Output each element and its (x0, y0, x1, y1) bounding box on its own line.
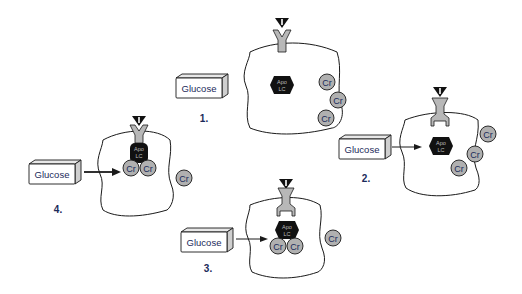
insulin-icon (275, 18, 289, 28)
chromium-ion: Cr (480, 126, 496, 142)
panel-3: Apo LC Cr Cr Cr Glucose 3. (181, 179, 341, 278)
svg-text:Cr: Cr (179, 174, 189, 184)
svg-text:Cr: Cr (333, 96, 343, 106)
step-label: 4. (54, 204, 63, 215)
chromium-ion: Cr (451, 160, 467, 176)
apolc-hexagon: Apo LC (275, 221, 299, 239)
step-label: 1. (200, 113, 209, 124)
svg-text:Cr: Cr (126, 164, 136, 174)
svg-text:LC: LC (278, 86, 285, 92)
svg-text:Glucose: Glucose (345, 144, 380, 155)
svg-text:Cr: Cr (273, 242, 283, 252)
glucose-box: Glucose (339, 135, 391, 159)
svg-text:Apo: Apo (134, 146, 144, 152)
svg-text:Cr: Cr (143, 164, 153, 174)
glucose-box: Glucose (29, 160, 81, 184)
chromium-ion: Cr (325, 230, 341, 246)
insulin-icon (279, 179, 293, 189)
svg-text:Cr: Cr (328, 234, 338, 244)
insulin-icon (433, 87, 447, 97)
chromium-ion: Cr (140, 160, 156, 176)
panel-4: Apo LC Cr Cr Cr Glucose 4. (29, 116, 192, 216)
svg-text:Apo: Apo (436, 140, 446, 146)
svg-text:Glucose: Glucose (35, 169, 70, 180)
chromium-ion: Cr (318, 110, 334, 126)
step-label: 3. (204, 263, 213, 274)
svg-text:Cr: Cr (454, 164, 464, 174)
svg-text:Cr: Cr (470, 150, 480, 160)
svg-text:Apo: Apo (282, 224, 292, 230)
chromium-ion: Cr (287, 238, 303, 254)
apolc-hexagon: Apo LC (429, 137, 453, 155)
svg-text:Apo: Apo (277, 79, 287, 85)
svg-text:Cr: Cr (290, 242, 300, 252)
panel-1: Apo LC Cr Cr Cr Glucose 1. (176, 18, 346, 134)
svg-text:Glucose: Glucose (187, 237, 222, 248)
chromium-ion: Cr (467, 146, 483, 162)
chromium-ion: Cr (319, 74, 335, 90)
svg-text:LC: LC (283, 231, 290, 237)
chromium-ion: Cr (270, 238, 286, 254)
apolc-hexagon: Apo LC (270, 76, 294, 94)
svg-text:LC: LC (437, 147, 444, 153)
svg-text:Cr: Cr (483, 130, 493, 140)
chromium-ion: Cr (176, 170, 192, 186)
step-label: 2. (362, 173, 371, 184)
panel-2: Apo LC Cr Cr Cr Glucose 2. (339, 87, 496, 196)
chromium-ion: Cr (123, 160, 139, 176)
chromodulin-diagram: Apo LC Cr Cr Cr Glucose 1. Apo LC Cr Cr … (0, 0, 522, 294)
svg-text:Cr: Cr (322, 78, 332, 88)
glucose-box: Glucose (176, 74, 228, 98)
glucose-box: Glucose (181, 228, 233, 252)
svg-text:LC: LC (135, 153, 142, 159)
svg-text:Cr: Cr (321, 114, 331, 124)
svg-text:Glucose: Glucose (182, 83, 217, 94)
insulin-icon (132, 116, 146, 126)
chromium-ion: Cr (330, 92, 346, 108)
